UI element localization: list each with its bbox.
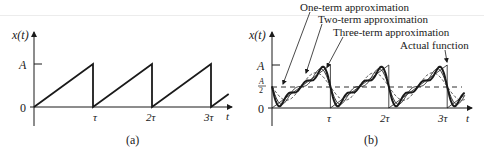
caption-b: (b) [364, 133, 378, 147]
tick-label-0: 0 [258, 102, 264, 116]
leader-one-term [283, 12, 310, 84]
x-axis-label: t [226, 110, 230, 122]
tick-label-3tau: 3τ [203, 111, 215, 123]
tick-label-3tau: 3τ [437, 112, 449, 124]
tick-label-0: 0 [20, 101, 26, 115]
leader-two-term [306, 24, 322, 73]
tick-label-tau: τ [327, 112, 332, 124]
tick-label-A: A [18, 58, 27, 72]
leader-three-term [327, 37, 343, 67]
y-axis-label: x(t) [248, 28, 266, 42]
tick-label-A: A [256, 59, 265, 73]
tick-label-half-denominator: 2 [259, 86, 263, 95]
panel-a: x(t) A 0 τ 2τ 3τ t (a) [11, 28, 232, 147]
three-term-approximation-line [272, 67, 465, 106]
panel-b: x(t) A A 2 0 τ 2τ 3τ t One-term approxim… [248, 1, 472, 147]
tick-label-tau: τ [93, 111, 98, 123]
tick-label-2tau: 2τ [146, 111, 157, 123]
annotation-actual-function: Actual function [400, 39, 469, 51]
sawtooth-line [34, 64, 229, 107]
annotation-three-term: Three-term approximation [333, 26, 450, 38]
annotation-one-term: One-term approximation [300, 1, 410, 13]
y-axis-label: x(t) [11, 28, 29, 42]
leader-actual [445, 50, 447, 62]
annotation-two-term: Two-term approximation [318, 13, 429, 25]
figure: x(t) A 0 τ 2τ 3τ t (a) x(t) A A 2 0 τ 2τ… [0, 0, 484, 155]
caption-a: (a) [126, 133, 139, 147]
tick-label-2tau: 2τ [380, 112, 391, 124]
tick-label-half-numerator: A [258, 77, 264, 86]
x-axis-label: t [466, 112, 470, 124]
